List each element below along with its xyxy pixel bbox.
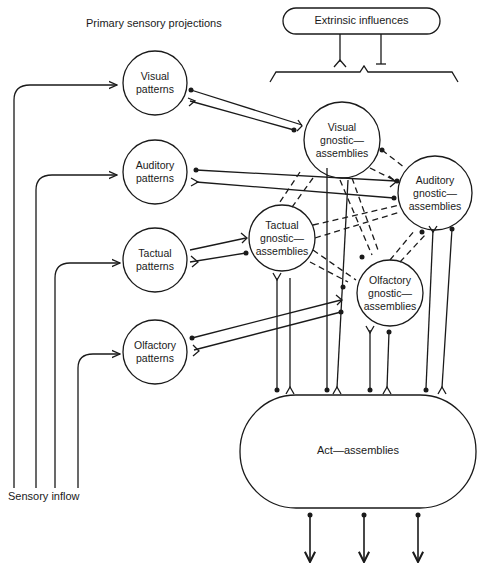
visual-patterns-label: Visual patterns [136,70,174,96]
primary-projections-label: Primary sensory projections [86,17,222,30]
node-line: patterns [134,352,176,365]
sensory-inflow-label: Sensory inflow [8,490,80,503]
node-line: gnostic— [364,287,417,300]
extrinsic-influences-label: Extrinsic influences [283,14,440,27]
tactual-patterns-label: Tactual patterns [136,247,174,273]
node-line: patterns [136,83,174,96]
node-line: gnostic— [256,232,309,245]
tactual-gnostic-label: Tactual gnostic— assemblies [256,219,309,258]
node-line: Visual [316,121,369,134]
node-line: Olfactory [134,339,176,352]
node-line: assemblies [364,300,417,313]
act-assemblies-label: Act—assemblies [240,444,476,457]
olfactory-gnostic-label: Olfactory gnostic— assemblies [364,274,417,313]
node-line: assemblies [409,200,462,213]
node-line: assemblies [256,245,309,258]
node-line: Auditory [136,159,175,172]
olfactory-patterns-label: Olfactory patterns [134,339,176,365]
node-line: Olfactory [364,274,417,287]
auditory-patterns-label: Auditory patterns [136,159,175,185]
node-line: gnostic— [316,134,369,147]
node-line: patterns [136,172,175,185]
node-line: assemblies [316,147,369,160]
node-line: gnostic— [409,187,462,200]
visual-gnostic-label: Visual gnostic— assemblies [316,121,369,160]
node-line: Tactual [136,247,174,260]
node-line: Tactual [256,219,309,232]
node-line: Auditory [409,174,462,187]
brace [270,66,458,82]
auditory-gnostic-label: Auditory gnostic— assemblies [409,174,462,213]
node-line: patterns [136,260,174,273]
node-line: Visual [136,70,174,83]
